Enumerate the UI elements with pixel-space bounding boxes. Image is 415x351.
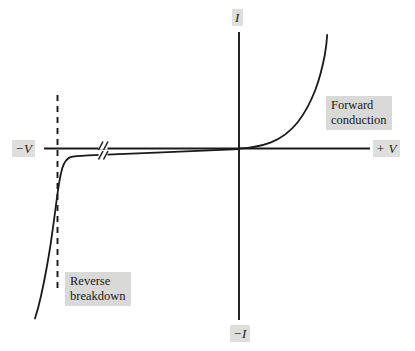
annotation-forward-line2: conduction <box>331 113 387 127</box>
annotation-forward-conduction: Forward conduction <box>326 96 392 130</box>
axis-break-symbol <box>99 142 109 160</box>
annotation-reverse-line1: Reverse <box>70 274 110 288</box>
annotation-reverse-breakdown: Reverse breakdown <box>65 272 131 306</box>
axis-label-current-negative: −I <box>230 325 250 342</box>
plot-canvas <box>0 0 415 351</box>
axis-label-voltage-positive: + V <box>373 140 400 157</box>
axis-label-current-positive: I <box>232 9 243 26</box>
axis-label-voltage-negative: −V <box>12 140 35 157</box>
forward-conduction-curve <box>239 35 327 149</box>
diode-iv-characteristic-figure: I −I −V + V Forward conduction Reverse b… <box>0 0 415 351</box>
annotation-forward-line1: Forward <box>331 98 373 112</box>
annotation-reverse-line2: breakdown <box>70 289 126 303</box>
